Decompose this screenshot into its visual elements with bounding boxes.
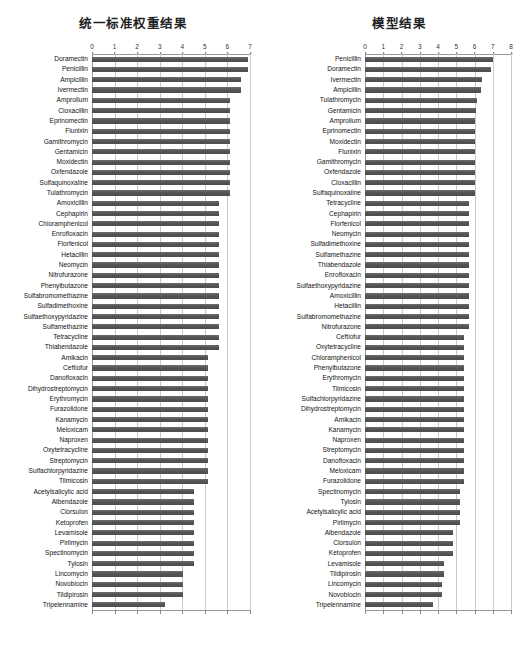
bar-category-label: Albendazole bbox=[325, 529, 361, 537]
bar-row: Lincomycin bbox=[365, 579, 511, 589]
bar bbox=[92, 87, 241, 92]
bar bbox=[92, 571, 183, 576]
bar-row: Acetylsalicylic acid bbox=[92, 486, 250, 496]
bar-category-label: Tripelennamine bbox=[316, 601, 361, 609]
bar-category-label: Lincomycin bbox=[55, 570, 88, 578]
bar bbox=[365, 530, 453, 535]
bar bbox=[365, 190, 475, 195]
bar-row: Naproxen bbox=[92, 435, 250, 445]
bar bbox=[92, 98, 230, 103]
bar-category-label: Cephapirin bbox=[56, 210, 88, 218]
axis-bottom-tick bbox=[402, 610, 403, 614]
bar-row: Amprolium bbox=[92, 95, 250, 105]
bar-series-right: PenicillinDoramectinIvermectinAmpicillin… bbox=[365, 54, 511, 610]
bar-category-label: Ketoprofen bbox=[329, 549, 361, 557]
axis-tick-right: 6 bbox=[473, 42, 477, 52]
bar-category-label: Sulfachlorpyridazine bbox=[302, 395, 361, 403]
bar-row: Hetacillin bbox=[92, 250, 250, 260]
axis-bottom-tick bbox=[205, 610, 206, 614]
bar-category-label: Cloxacillin bbox=[331, 179, 361, 187]
bar-category-label: Chloramphenicol bbox=[312, 354, 361, 362]
bar bbox=[92, 407, 208, 412]
axis-tick-left: 4 bbox=[180, 42, 184, 52]
bar-row: Danofloxacin bbox=[365, 456, 511, 466]
bar bbox=[365, 541, 453, 546]
bar bbox=[365, 479, 464, 484]
bar-category-label: Furazolidone bbox=[50, 405, 88, 413]
bar bbox=[365, 232, 469, 237]
bar-category-label: Gentamicin bbox=[55, 148, 88, 156]
bar-category-label: Meloxicam bbox=[56, 426, 88, 434]
bar-category-label: Spectinomycin bbox=[45, 549, 88, 557]
axis-tick-left: 3 bbox=[158, 42, 162, 52]
bar-category-label: Phenylbutazone bbox=[314, 364, 361, 372]
bar bbox=[365, 510, 460, 515]
bar-row: Dihydrostreptomycin bbox=[365, 404, 511, 414]
bar-category-label: Enrofloxacin bbox=[325, 271, 361, 279]
bar-category-label: Erythromycin bbox=[323, 374, 361, 382]
bar-row: Oxytetracycline bbox=[92, 445, 250, 455]
bar bbox=[92, 324, 219, 329]
bar-row: Novobiocin bbox=[92, 579, 250, 589]
bar bbox=[92, 499, 194, 504]
bar-row: Sulfabromomethazine bbox=[365, 311, 511, 321]
bar bbox=[365, 376, 464, 381]
bar-category-label: Hetacillin bbox=[334, 302, 361, 310]
x-axis-bottom-right bbox=[365, 610, 511, 616]
bar bbox=[365, 283, 469, 288]
bar-category-label: Clorsulon bbox=[333, 539, 361, 547]
bar-category-label: Gamithromycin bbox=[317, 158, 361, 166]
bar bbox=[92, 273, 219, 278]
bar bbox=[92, 252, 219, 257]
bar-row: Sulfaethoxypyridazine bbox=[92, 311, 250, 321]
bar bbox=[365, 345, 464, 350]
bar bbox=[92, 335, 219, 340]
bar-row: Oxfendazole bbox=[365, 167, 511, 177]
bar-row: Ivermectin bbox=[365, 75, 511, 85]
bar-row: Phenylbutazone bbox=[92, 281, 250, 291]
bar bbox=[92, 541, 194, 546]
bar bbox=[92, 438, 208, 443]
bar bbox=[92, 365, 208, 370]
bar bbox=[92, 221, 219, 226]
bar-category-label: Neomycin bbox=[332, 230, 361, 238]
bar-category-label: Oxytetracycline bbox=[316, 343, 361, 351]
bar bbox=[92, 386, 208, 391]
bar-category-label: Tetracycline bbox=[53, 333, 88, 341]
bar bbox=[92, 561, 194, 566]
bar bbox=[365, 201, 469, 206]
bar-row: Pirlimycin bbox=[365, 517, 511, 527]
bar-category-label: Naproxen bbox=[59, 436, 88, 444]
axis-tick-left: 7 bbox=[248, 42, 252, 52]
bar bbox=[92, 530, 194, 535]
bar-category-label: Florfenicol bbox=[58, 240, 88, 248]
bar bbox=[92, 592, 183, 597]
bar-category-label: Tylosin bbox=[67, 560, 88, 568]
bar bbox=[365, 304, 469, 309]
bar-row: Lincomycin bbox=[92, 569, 250, 579]
bar-row: Ketoprofen bbox=[92, 517, 250, 527]
axis-tick-right: 0 bbox=[363, 42, 367, 52]
bar-category-label: Thiabendazole bbox=[45, 343, 88, 351]
bar-row: Enrofloxacin bbox=[365, 270, 511, 280]
bar bbox=[365, 602, 433, 607]
bar-row: Flunixin bbox=[92, 126, 250, 136]
bar-row: Eprinomectin bbox=[365, 126, 511, 136]
axis-tick-left: 1 bbox=[113, 42, 117, 52]
bar bbox=[92, 67, 248, 72]
bar bbox=[365, 571, 444, 576]
bar-category-label: Streptomycin bbox=[50, 457, 88, 465]
bar-row: Clorsulon bbox=[92, 507, 250, 517]
bar-row: Kanamycin bbox=[365, 425, 511, 435]
bar-category-label: Sulfadimethoxine bbox=[37, 302, 88, 310]
bar-category-label: Oxfendazole bbox=[324, 168, 361, 176]
bar-category-label: Clorsulon bbox=[60, 508, 88, 516]
bar-row: Albendazole bbox=[92, 497, 250, 507]
bar-row: Clorsulon bbox=[365, 538, 511, 548]
bar bbox=[365, 221, 469, 226]
bar-row: Ceftiofur bbox=[92, 363, 250, 373]
bar-category-label: Erythromycin bbox=[50, 395, 88, 403]
bar bbox=[92, 489, 194, 494]
plot-area-left: DoramectinPenicillinAmpicillinIvermectin… bbox=[92, 54, 250, 610]
bar-row: Tripelennamine bbox=[365, 600, 511, 610]
